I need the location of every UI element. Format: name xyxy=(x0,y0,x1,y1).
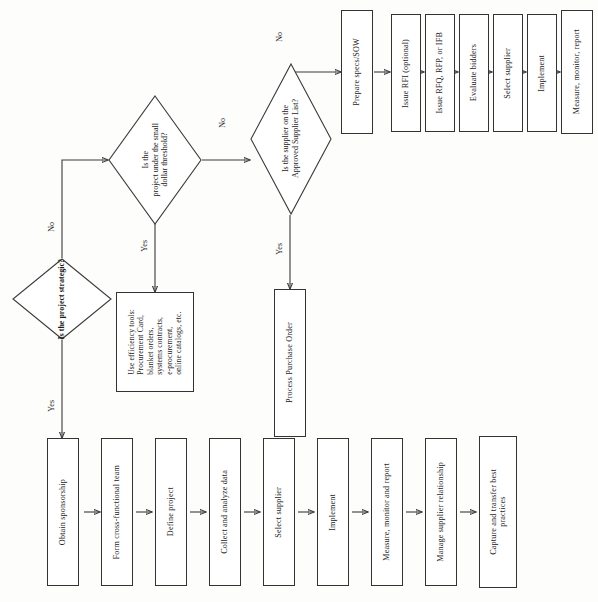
process-select-supplier[interactable]: Select supplier xyxy=(263,438,295,586)
process-label: Manage supplier relationship xyxy=(436,460,445,564)
process-manage-supplier-relationship[interactable]: Manage supplier relationship xyxy=(425,438,457,586)
process-label: Select supplier xyxy=(503,46,512,101)
process-issue-rfi[interactable]: Issue RFI (optional) xyxy=(391,14,421,132)
process-label: Collect and analyze data xyxy=(220,468,229,556)
process-label: Prepare specs/SOW xyxy=(352,36,361,108)
process-measure-monitor-report-bid[interactable]: Measure, monitor, report xyxy=(561,10,593,134)
process-collect-and-analyze-data[interactable]: Collect and analyze data xyxy=(209,438,241,586)
process-label: Issue RFQ, RFP, or IFB xyxy=(435,30,444,116)
process-label: Evaluate bidders xyxy=(469,42,478,103)
process-measure-monitor-and-report[interactable]: Measure, monitor and report xyxy=(371,438,403,586)
process-issue-rfq-rfp-ifb[interactable]: Issue RFQ, RFP, or IFB xyxy=(425,14,455,132)
process-label: Select supplier xyxy=(274,485,283,540)
process-label: Measure, monitor, report xyxy=(572,27,581,116)
process-prepare-specs-sow[interactable]: Prepare specs/SOW xyxy=(341,10,373,134)
process-label: Capture and transfer best practices xyxy=(489,467,508,557)
process-implement-bid[interactable]: Implement xyxy=(527,14,557,132)
process-label: Form cross-functional team xyxy=(112,463,121,561)
process-label: Implement xyxy=(328,492,337,533)
edge-label-threshold-no: No xyxy=(219,118,227,128)
process-label: Define project xyxy=(166,485,175,538)
diamond-shape xyxy=(108,95,202,225)
process-form-cross-functional-team[interactable]: Form cross-functional team xyxy=(101,438,133,586)
edge-label-strategic-no: No xyxy=(48,222,56,232)
process-define-project[interactable]: Define project xyxy=(155,438,187,586)
process-select-supplier-bid[interactable]: Select supplier xyxy=(493,14,523,132)
flowchart-canvas: Is the project strategic? Is the project… xyxy=(0,0,598,602)
process-process-purchase-order[interactable]: Process Purchase Order xyxy=(274,289,306,437)
diamond-shape xyxy=(12,258,112,340)
edge-label-supplier-no: No xyxy=(276,32,284,42)
process-label: Obtain sponsorship xyxy=(58,477,67,547)
decision-approved-supplier-list[interactable]: Is the supplier on the Approved Supplier… xyxy=(250,63,332,215)
edge-label-supplier-yes: Yes xyxy=(276,243,284,255)
decision-is-project-strategic[interactable]: Is the project strategic? xyxy=(12,258,112,340)
process-implement[interactable]: Implement xyxy=(317,438,349,586)
diamond-shape xyxy=(250,63,332,215)
process-label: Measure, monitor and report xyxy=(382,461,391,563)
process-label: Implement xyxy=(537,53,546,94)
process-label: Process Purchase Order xyxy=(285,320,294,405)
note-label: Use efficiency tools: Procurement Card, … xyxy=(127,307,184,377)
process-obtain-sponsorship[interactable]: Obtain sponsorship xyxy=(47,438,79,586)
process-capture-and-transfer-best-practices[interactable]: Capture and transfer best practices xyxy=(479,436,517,588)
edge-label-strategic-yes: Yes xyxy=(48,400,56,412)
process-label: Issue RFI (optional) xyxy=(401,37,410,110)
note-use-efficiency-tools[interactable]: Use efficiency tools: Procurement Card, … xyxy=(116,292,194,392)
decision-small-dollar-threshold[interactable]: Is the project under the small dollar th… xyxy=(108,95,202,225)
edge-label-threshold-yes: Yes xyxy=(141,240,149,252)
process-evaluate-bidders[interactable]: Evaluate bidders xyxy=(459,14,489,132)
